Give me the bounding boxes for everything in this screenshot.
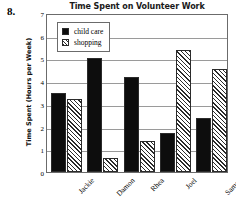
plot-area: 01234567 child care shopping xyxy=(46,14,228,173)
legend-label-child-care: child care xyxy=(74,27,103,36)
x-tick-label: Saman xyxy=(223,176,236,197)
bar-group xyxy=(160,15,191,172)
legend-item-shopping: shopping xyxy=(62,37,103,48)
bar-child-care xyxy=(196,118,211,173)
bar-shopping xyxy=(67,99,82,172)
y-tick-label: 4 xyxy=(41,79,45,87)
bar-child-care xyxy=(124,77,139,172)
bar-group xyxy=(124,15,155,172)
x-tick-label: Rhea xyxy=(149,176,166,193)
legend: child care shopping xyxy=(57,22,110,52)
bar-child-care xyxy=(87,58,102,172)
legend-swatch-shopping-icon xyxy=(62,39,69,46)
y-tick-label: 6 xyxy=(41,34,45,42)
bar-child-care xyxy=(160,133,175,172)
bar-group xyxy=(196,15,227,172)
legend-label-shopping: shopping xyxy=(74,38,102,47)
bar-shopping xyxy=(212,69,227,172)
x-tick-label: Damon xyxy=(114,176,136,198)
y-tick-label: 3 xyxy=(41,102,45,110)
x-tick-label: Joel xyxy=(184,176,199,191)
bar-shopping xyxy=(103,158,118,172)
bar-shopping xyxy=(176,50,191,172)
y-axis-title: Time Spent (Hours per Week) xyxy=(25,22,33,162)
y-tick-label: 5 xyxy=(41,56,45,64)
x-tick-label: Jackie xyxy=(77,176,97,196)
bar-child-care xyxy=(51,93,66,173)
y-tick-label: 1 xyxy=(41,147,45,155)
problem-number: 8. xyxy=(7,5,15,17)
y-tick-label: 7 xyxy=(41,11,45,19)
legend-item-child-care: child care xyxy=(62,26,103,37)
chart-title: Time Spent on Volunteer Work xyxy=(46,2,228,11)
y-tick-label: 2 xyxy=(41,125,45,133)
y-tick-label: 0 xyxy=(41,170,45,178)
legend-swatch-child-care-icon xyxy=(62,28,69,35)
bar-shopping xyxy=(140,141,155,172)
